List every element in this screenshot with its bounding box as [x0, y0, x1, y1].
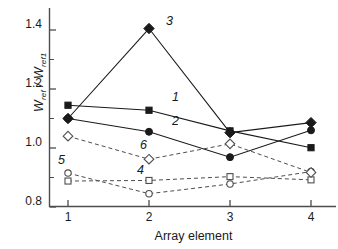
series-6-point-1	[63, 131, 73, 141]
plot-area	[0, 0, 338, 249]
series-lines	[68, 29, 311, 194]
series-1-point-1	[65, 102, 71, 108]
series-6-point-3	[225, 139, 235, 149]
series-5-point-3	[227, 181, 233, 187]
series-4-point-1	[65, 178, 71, 184]
series-6-point-2	[144, 154, 154, 164]
series-6-point-4	[306, 168, 316, 178]
series-3-point-3	[225, 127, 235, 137]
series-1-point-2	[146, 107, 152, 113]
series-4-point-3	[227, 174, 233, 180]
series-5-point-2	[146, 191, 152, 197]
series-1-point-4	[308, 145, 314, 151]
series-line-5	[68, 172, 311, 194]
series-line-6	[68, 136, 311, 172]
series-2-point-2	[146, 128, 153, 135]
axis-lines	[50, 8, 337, 207]
series-line-1	[68, 105, 311, 147]
series-line-2	[68, 119, 311, 158]
series-4-point-2	[146, 177, 152, 183]
series-5-point-1	[65, 170, 71, 176]
series-3-point-4	[306, 117, 316, 127]
chart-figure: Wref / Wref1 0.8 1.0 1.2 1.4 1 2 3 4 Arr…	[0, 0, 338, 249]
series-markers	[63, 23, 316, 197]
series-line-3	[68, 29, 311, 133]
series-2-point-3	[227, 154, 234, 161]
